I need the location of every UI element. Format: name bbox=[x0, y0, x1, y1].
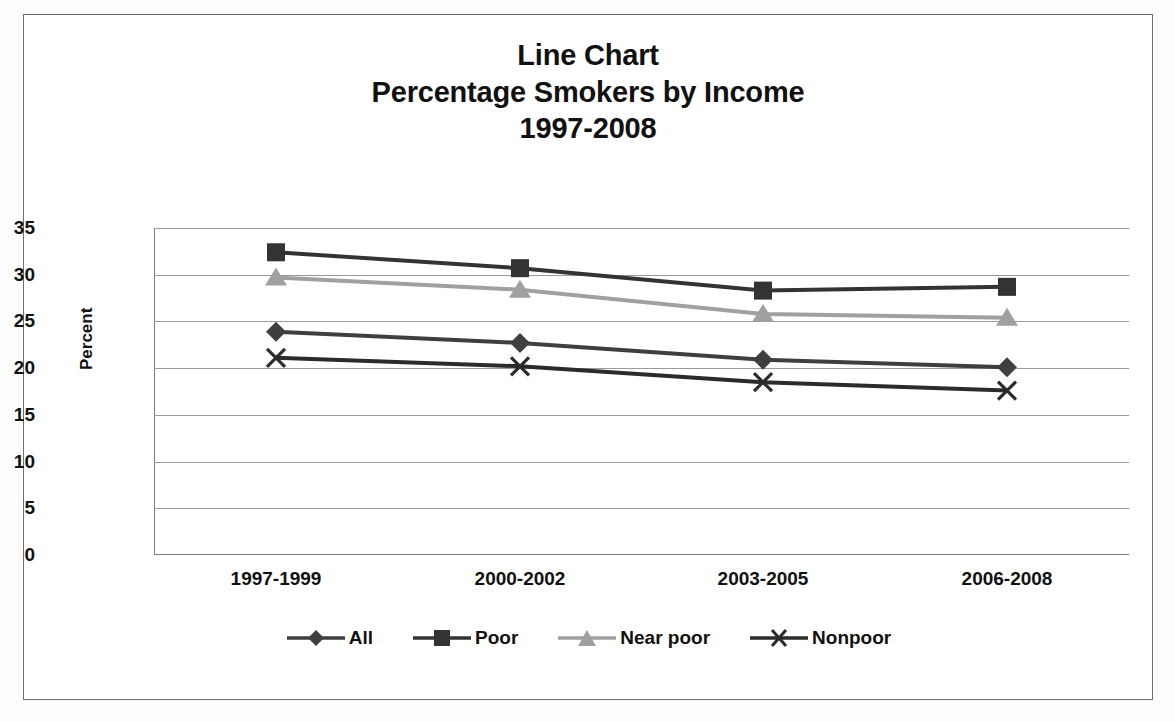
y-tick-label-10: 10 bbox=[0, 451, 35, 473]
legend-item-poor[interactable]: Poor bbox=[411, 627, 518, 649]
cross-x-marker-icon bbox=[748, 627, 810, 649]
y-axis-title: Percent bbox=[77, 308, 97, 370]
chart-title-line-1: Line Chart bbox=[24, 37, 1152, 74]
legend-item-all[interactable]: All bbox=[285, 627, 373, 649]
x-tick-label-2: 2003-2005 bbox=[663, 568, 863, 590]
series-line bbox=[276, 278, 1007, 318]
legend-label-all: All bbox=[349, 627, 373, 649]
y-tick-label-0: 0 bbox=[0, 544, 35, 566]
triangle-marker-icon bbox=[556, 627, 618, 649]
legend-label-near-poor: Near poor bbox=[620, 627, 710, 649]
data-point bbox=[997, 357, 1017, 377]
legend-label-nonpoor: Nonpoor bbox=[812, 627, 891, 649]
legend-label-poor: Poor bbox=[475, 627, 518, 649]
data-point bbox=[266, 322, 286, 342]
y-tick-label-30: 30 bbox=[0, 264, 35, 286]
y-tick-label-20: 20 bbox=[0, 357, 35, 379]
data-point bbox=[511, 259, 529, 277]
y-tick-label-15: 15 bbox=[0, 404, 35, 426]
y-tick-label-25: 25 bbox=[0, 310, 35, 332]
data-point bbox=[998, 278, 1016, 296]
x-tick-label-1: 2000-2002 bbox=[420, 568, 620, 590]
data-point bbox=[267, 243, 285, 261]
chart-title: Line Chart Percentage Smokers by Income … bbox=[24, 37, 1152, 147]
y-tick-label-5: 5 bbox=[0, 497, 35, 519]
x-tick-label-3: 2006-2008 bbox=[907, 568, 1107, 590]
data-point bbox=[754, 282, 772, 300]
y-tick-label-35: 35 bbox=[0, 217, 35, 239]
data-point bbox=[753, 350, 773, 370]
chart-title-line-3: 1997-2008 bbox=[24, 110, 1152, 147]
series-poor bbox=[267, 243, 1016, 299]
series-canvas bbox=[154, 228, 1129, 555]
series-near-poor bbox=[265, 268, 1018, 326]
plot-area: 35 30 25 20 15 10 5 0 1997-1999 2000-200… bbox=[154, 228, 1129, 555]
chart-legend: All Poor Near poor bbox=[24, 627, 1152, 649]
square-marker-icon bbox=[411, 627, 473, 649]
legend-item-nonpoor[interactable]: Nonpoor bbox=[748, 627, 891, 649]
chart-title-line-2: Percentage Smokers by Income bbox=[24, 74, 1152, 111]
diamond-marker-icon bbox=[285, 627, 347, 649]
data-point bbox=[510, 333, 530, 353]
legend-item-near-poor[interactable]: Near poor bbox=[556, 627, 710, 649]
series-all bbox=[266, 322, 1017, 378]
series-nonpoor bbox=[267, 349, 1016, 400]
scanned-page: Line Chart Percentage Smokers by Income … bbox=[0, 0, 1175, 722]
x-tick-label-0: 1997-1999 bbox=[176, 568, 376, 590]
chart-frame: Line Chart Percentage Smokers by Income … bbox=[23, 14, 1153, 700]
